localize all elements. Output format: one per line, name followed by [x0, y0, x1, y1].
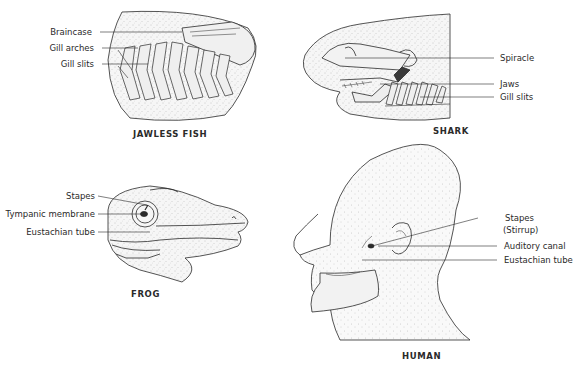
- label-stirrup: (Stirrup): [503, 225, 538, 235]
- caption-jawless-fish: JAWLESS FISH: [133, 129, 207, 139]
- frog-drawing: [98, 186, 248, 282]
- caption-shark: SHARK: [433, 126, 469, 136]
- label-gill-arches: Gill arches: [49, 43, 94, 53]
- caption-human: HUMAN: [402, 351, 441, 361]
- diagram-artwork: [0, 0, 574, 367]
- label-stapes-human: Stapes: [505, 213, 534, 223]
- shark-drawing: [303, 14, 494, 120]
- label-spiracle: Spiracle: [500, 53, 534, 63]
- label-gill-slits: Gill slits: [61, 59, 94, 69]
- jawless-fish-drawing: [100, 11, 256, 120]
- label-eustachian-tube-human: Eustachian tube: [504, 255, 573, 265]
- human-drawing: [294, 144, 497, 340]
- label-tympanic-membrane: Tympanic membrane: [6, 209, 95, 219]
- label-auditory-canal: Auditory canal: [504, 241, 566, 251]
- label-braincase: Braincase: [50, 27, 92, 37]
- label-stapes-frog: Stapes: [66, 191, 95, 201]
- caption-frog: FROG: [131, 289, 160, 299]
- label-eustachian-tube-frog: Eustachian tube: [26, 227, 95, 237]
- label-gill-slits-shark: Gill slits: [500, 92, 533, 102]
- label-jaws: Jaws: [500, 79, 519, 89]
